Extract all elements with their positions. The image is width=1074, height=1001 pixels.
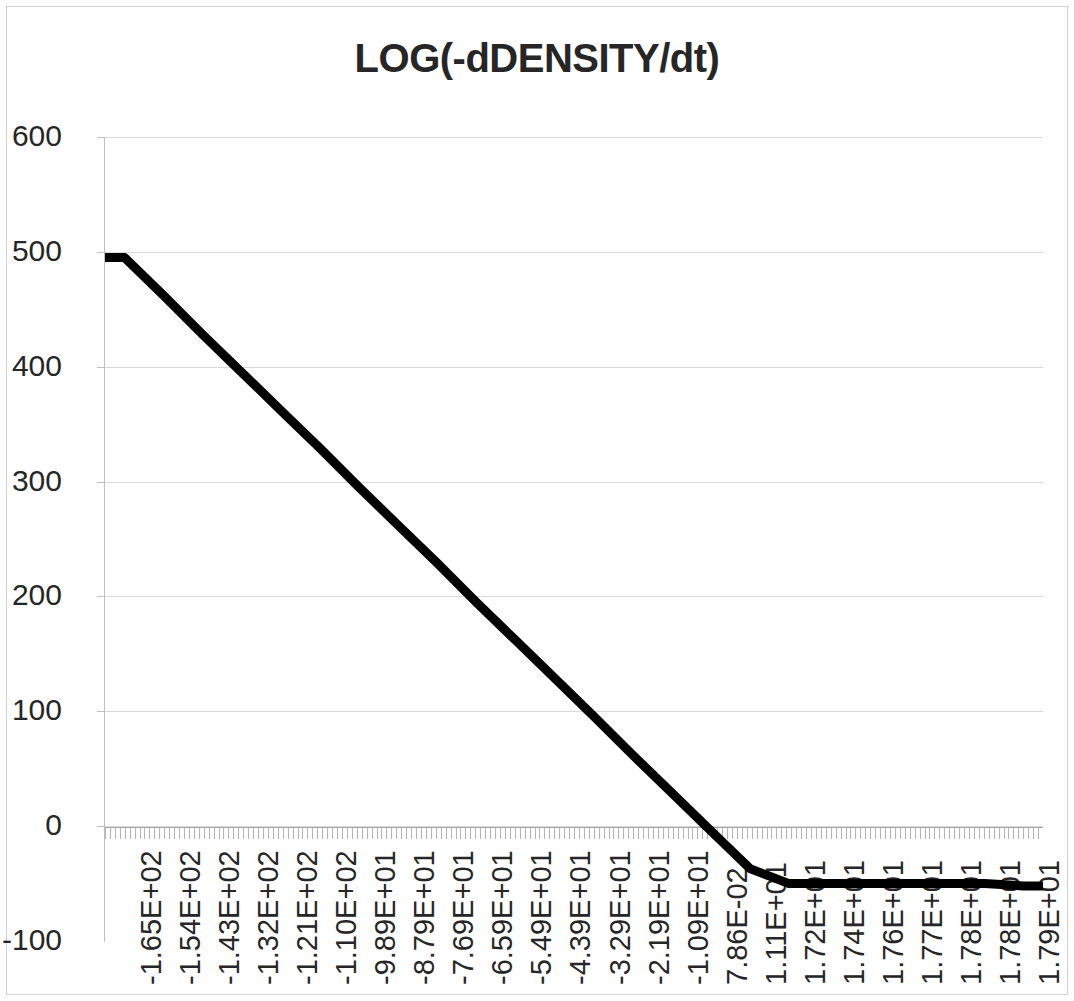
gridline	[105, 482, 1043, 483]
x-axis-tick	[875, 828, 876, 839]
x-axis-tick	[283, 828, 284, 839]
gridline	[105, 367, 1043, 368]
x-axis-tick	[406, 828, 407, 839]
x-axis-label: 1.77E+01	[917, 835, 947, 985]
x-axis-label: 1.76E+01	[878, 835, 908, 985]
x-axis-tick	[752, 828, 753, 839]
x-axis-tick	[446, 828, 447, 839]
x-axis-label: -5.49E+01	[526, 835, 556, 985]
plot-area	[105, 137, 1043, 941]
x-axis-tick	[322, 828, 323, 839]
chart-container: LOG(-dDENSITY/dt) 6005004003002001000-10…	[0, 0, 1074, 1001]
x-axis-label: -4.39E+01	[565, 835, 595, 985]
y-axis-tick	[97, 596, 104, 597]
gridline	[105, 137, 1043, 138]
x-axis-tick	[105, 828, 106, 839]
x-axis-tick	[367, 828, 368, 839]
y-axis-label: 200	[0, 580, 62, 610]
y-axis-tick	[97, 252, 104, 253]
gridline	[105, 596, 1043, 597]
x-axis-tick	[915, 828, 916, 839]
x-axis-label: -3.29E+01	[605, 835, 635, 985]
x-axis-label: -2.19E+01	[644, 835, 674, 985]
gridline	[105, 711, 1043, 712]
x-axis-tick	[115, 828, 116, 839]
x-axis-label: -1.32E+02	[253, 835, 283, 985]
y-axis-label: 600	[0, 121, 62, 151]
y-axis-label: 300	[0, 466, 62, 496]
x-axis-tick	[599, 828, 600, 839]
x-axis-label: -7.69E+01	[448, 835, 478, 985]
x-axis-label: -1.10E+02	[331, 835, 361, 985]
x-axis-label: -6.59E+01	[487, 835, 517, 985]
x-axis-tick	[120, 828, 121, 839]
x-axis-tick	[288, 828, 289, 839]
y-axis-label: 0	[0, 810, 62, 840]
y-axis-label: 500	[0, 236, 62, 266]
x-axis-label: -1.09E+01	[683, 835, 713, 985]
x-axis-tick	[949, 828, 950, 839]
y-axis-tick	[97, 367, 104, 368]
x-axis-tick	[559, 828, 560, 839]
x-axis-tick	[910, 828, 911, 839]
value-axis-line	[104, 137, 105, 942]
x-axis-tick	[757, 828, 758, 839]
x-axis-label: 1.11E+01	[761, 835, 791, 985]
x-axis-label: 1.74E+01	[839, 835, 869, 985]
x-axis-label: -9.89E+01	[370, 835, 400, 985]
x-axis-label: 1.79E+01	[1034, 835, 1064, 985]
x-axis-label: -1.54E+02	[175, 835, 205, 985]
x-axis-tick	[209, 828, 210, 839]
x-axis-label: 1.78E+01	[956, 835, 986, 985]
x-axis-tick	[401, 828, 402, 839]
x-axis-label: 1.72E+01	[800, 835, 830, 985]
x-axis-tick	[1028, 828, 1029, 839]
x-axis-tick	[520, 828, 521, 839]
y-axis-label: -100	[0, 925, 62, 955]
x-axis-tick	[791, 828, 792, 839]
x-axis-tick	[248, 828, 249, 839]
chart-title: LOG(-dDENSITY/dt)	[0, 34, 1074, 82]
x-axis-tick	[327, 828, 328, 839]
x-axis-label: -1.43E+02	[214, 835, 244, 985]
x-axis-tick	[485, 828, 486, 839]
x-axis-label: -8.79E+01	[409, 835, 439, 985]
x-axis-tick	[678, 828, 679, 839]
x-axis-tick	[362, 828, 363, 839]
y-axis-tick	[97, 711, 104, 712]
x-axis-tick	[441, 828, 442, 839]
y-axis-tick	[97, 482, 104, 483]
x-axis-label: -1.21E+02	[292, 835, 322, 985]
x-axis-tick	[130, 828, 131, 839]
x-axis-tick	[125, 828, 126, 839]
x-axis-tick	[480, 828, 481, 839]
x-axis-tick	[831, 828, 832, 839]
x-axis-tick	[638, 828, 639, 839]
x-axis-tick	[169, 828, 170, 839]
y-axis-tick	[97, 826, 104, 827]
y-axis-label: 100	[0, 695, 62, 725]
gridline	[105, 252, 1043, 253]
x-axis-tick	[989, 828, 990, 839]
x-axis-tick	[954, 828, 955, 839]
x-axis-labels: -1.65E+02-1.54E+02-1.43E+02-1.32E+02-1.2…	[105, 839, 1043, 989]
y-axis-label: 400	[0, 351, 62, 381]
x-axis-label: -1.65E+02	[136, 835, 166, 985]
y-axis-tick	[97, 137, 104, 138]
x-axis-tick	[110, 828, 111, 839]
x-axis-tick	[796, 828, 797, 839]
x-axis-label: 1.78E+01	[995, 835, 1025, 985]
x-axis-tick	[717, 828, 718, 839]
x-axis-tick	[836, 828, 837, 839]
x-axis-label: 7.86E-02	[722, 835, 752, 985]
x-axis-tick	[870, 828, 871, 839]
